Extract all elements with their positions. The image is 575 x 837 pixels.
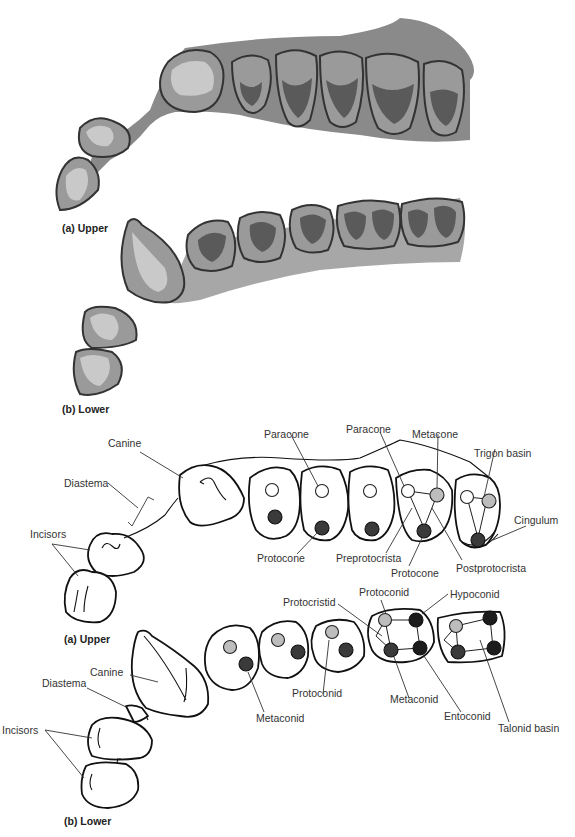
protocone-cusp [268,510,282,524]
paracone-cusp [461,491,474,504]
metaconid-cusp [339,643,353,657]
upper-label-paracone-2: Paracone [346,423,391,435]
upper-label-protocone-1: Protocone [257,552,305,564]
paracone-cusp [364,485,377,498]
upper-label-preprotocrista: Preprotocrista [336,552,402,564]
lower-label-protocristid: Protocristid [283,596,336,608]
hypoconid-cusp [483,611,497,625]
protoconid-cusp [450,620,463,633]
lower-label-entoconid: Entoconid [444,710,491,722]
paracone-cusp [402,485,415,498]
upper-molar-1 [249,467,300,539]
lower-label-metaconid-2: Metaconid [390,693,439,705]
protocone-cusp [365,522,379,536]
upper-label-diastema: Diastema [64,477,109,489]
protocone-cusp [417,524,431,538]
upper-label-trigon-basin: Trigon basin [474,447,532,459]
illustration-lower-caption: (b) Lower [62,403,109,415]
protoconid-cusp [326,626,339,639]
hypoconid-cusp [409,613,423,627]
metaconid-cusp [291,645,305,659]
upper-label-canine: Canine [108,437,141,449]
lower-label-protoconid-2: Protoconid [292,687,342,699]
metaconid-cusp [239,657,253,671]
illustration-upper-caption: (a) Upper [62,222,108,234]
protoconid-cusp [272,634,285,647]
diagram-lower-caption: (b) Lower [64,815,111,827]
paracone-cusp [266,484,279,497]
lower-label-metaconid-1: Metaconid [256,712,305,724]
upper-label-incisors: Incisors [30,528,66,540]
protocone-cusp [471,533,485,547]
protoconid-cusp [224,641,237,654]
lower-label-talonid-basin: Talonid basin [498,722,559,734]
upper-incisor-1 [88,533,144,576]
entoconid-cusp [487,641,501,655]
diagram-upper-caption: (a) Upper [64,633,110,645]
metaconid-cusp [451,645,465,659]
upper-canine [179,465,244,525]
lower-label-protoconid-1: Protoconid [359,586,409,598]
lower-label-hypoconid: Hypoconid [450,588,500,600]
upper-label-cingulum: Cingulum [514,514,559,526]
dentition-figure: (a) Upper (b) Lower [0,0,575,837]
illustration-upper-jaw [56,18,474,210]
upper-label-postprotocrista: Postprotocrista [456,562,526,574]
lower-label-diastema: Diastema [42,677,87,689]
diagram-lower-jaw [45,594,509,808]
lower-label-incisors: Incisors [2,724,38,736]
paracone-cusp [316,485,329,498]
upper-incisor-2 [65,570,116,622]
protoconid-cusp [379,614,392,627]
entoconid-cusp [413,641,427,655]
metaconid-cusp [384,643,398,657]
lower-molar-3 [311,620,364,672]
metacone-cusp [430,488,444,502]
upper-label-protocone-2: Protocone [391,567,439,579]
illustration-lower-jaw [74,198,465,395]
lower-label-canine: Canine [90,666,123,678]
lower-canine [132,631,208,717]
upper-label-metacone: Metacone [412,428,458,440]
upper-label-paracone-1: Paracone [264,428,309,440]
